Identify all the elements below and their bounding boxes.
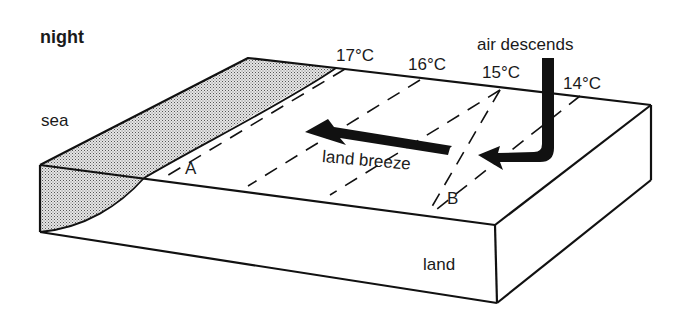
isotherm-label-16: 16°C <box>408 56 446 73</box>
isotherm-label-15: 15°C <box>482 64 520 81</box>
air-descends-label: air descends <box>477 36 573 53</box>
point-b-label: B <box>447 190 458 207</box>
sea-label: sea <box>41 112 68 129</box>
diagram-title: night <box>40 28 84 46</box>
isotherm-label-14: 14°C <box>563 75 601 92</box>
land-label: land <box>423 256 455 273</box>
isotherm-label-17: 17°C <box>336 47 374 64</box>
point-a-label: A <box>185 160 196 177</box>
